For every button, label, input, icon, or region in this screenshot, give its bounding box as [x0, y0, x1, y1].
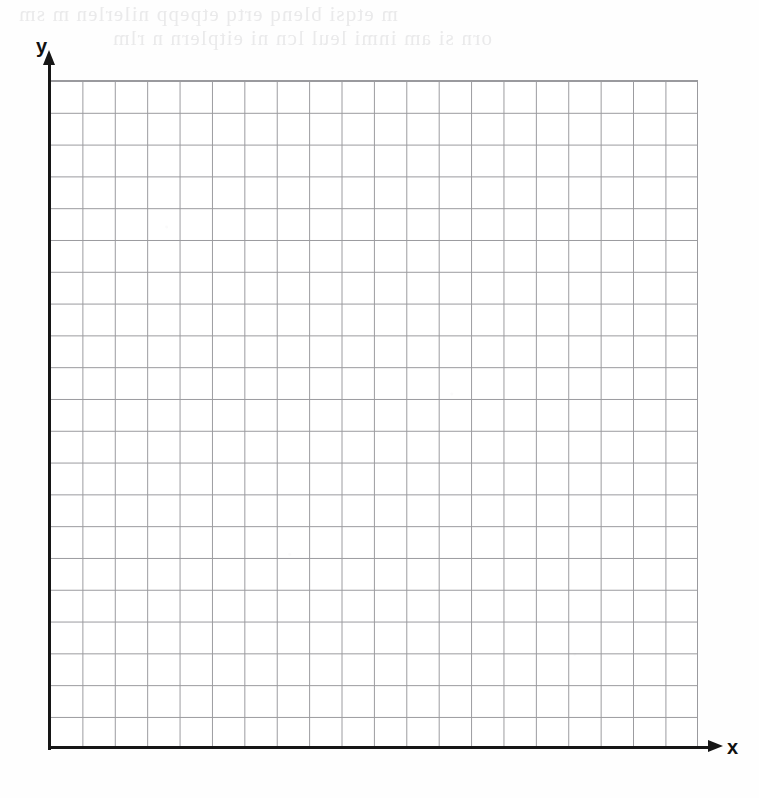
y-axis-label: y — [36, 36, 47, 56]
right-arrow-icon — [708, 740, 723, 752]
graph-paper-grid — [50, 80, 698, 748]
x-axis-label: x — [727, 737, 738, 757]
coordinate-grid-figure: y x — [0, 0, 759, 798]
y-axis-line — [48, 62, 51, 750]
x-axis-line — [48, 746, 712, 749]
scanned-page: m etqsi blenq ertq etpepp nilerlen m sm … — [0, 0, 759, 798]
